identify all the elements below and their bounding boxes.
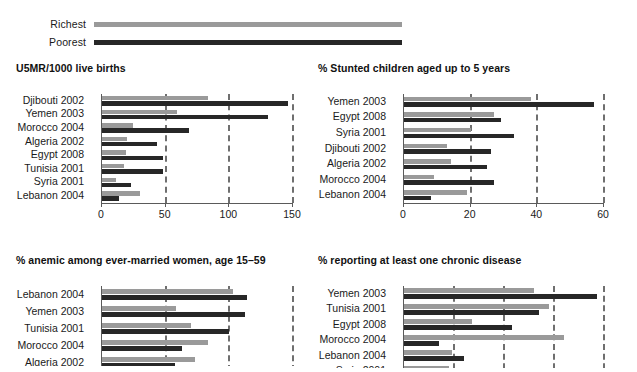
plot-area-anemic: Lebanon 2004Yemen 2003Tunisia 2001Morocc… [16,286,312,372]
bar-poorest [102,346,182,351]
category-label: Morocco 2004 [16,122,89,133]
bar-poorest [102,183,131,187]
bar-poorest [404,149,491,154]
x-tick-label: 40 [530,208,542,220]
bar-poorest [102,196,119,200]
bar-richest [102,164,124,168]
bar-richest [404,97,531,102]
bar-poorest [404,180,494,185]
category-label: Lebanon 2004 [16,289,89,300]
bar-poorest [404,118,501,123]
bar-richest [404,366,449,368]
bar-richest [102,323,191,328]
gridline-u5mr-100 [228,94,230,203]
category-label: Djibouti 2002 [16,95,89,106]
chart-title-anemic: % anemic among ever-married women, age 1… [16,254,266,266]
category-label: Syria 2001 [318,127,391,138]
category-label: Lebanon 2004 [16,190,89,201]
x-tick-label: 0 [400,208,406,220]
category-label: Lebanon 2004 [318,189,391,200]
bar-richest [102,289,233,294]
category-label: Tunisia 2001 [16,323,89,334]
x-tick-stunted-20 [470,204,471,207]
bar-poorest [102,128,189,132]
bar-poorest [404,196,431,201]
legend-label-richest: Richest [16,18,94,30]
category-label: Morocco 2004 [16,340,89,351]
gridline-stunted-40 [536,94,538,203]
category-label: Syria 2001 [16,176,89,187]
legend-label-poorest: Poorest [16,36,94,48]
category-label: Egypt 2008 [16,149,89,160]
category-label: Morocco 2004 [318,334,391,345]
bar-richest [404,335,564,340]
x-tick-u5mr-50 [165,204,166,207]
x-tick-label: 20 [464,208,476,220]
bar-richest [404,159,451,164]
bar-richest [404,288,534,293]
category-label: Yemen 2003 [16,108,89,119]
x-tick-label: 50 [159,208,171,220]
bar-richest [102,137,127,141]
bar-poorest [102,329,229,334]
plot-clip-stunted: Yemen 2003Egypt 2008Syria 2001Djibouti 2… [318,94,623,227]
chart-panel-anemic: % anemic among ever-married women, age 1… [16,254,266,266]
bar-poorest [404,356,464,361]
x-tick-u5mr-0 [101,204,102,207]
category-label: Morocco 2004 [318,174,391,185]
category-label: Tunisia 2001 [16,163,89,174]
bar-richest [102,178,116,182]
legend-swatch-richest [94,22,402,27]
legend-swatch-poorest [94,40,402,45]
bar-richest [102,340,208,345]
chart-title-stunted: % Stunted children aged up to 5 years [318,62,510,74]
bar-poorest [404,134,514,139]
chart-panel-chronic: % reporting at least one chronic disease… [318,254,521,266]
plot-area-stunted: Yemen 2003Egypt 2008Syria 2001Djibouti 2… [318,94,623,225]
plot-area-chronic: Yemen 2003Tunisia 2001Egypt 2008Morocco … [318,286,623,372]
bar-poorest [404,310,539,315]
bar-richest [404,350,452,355]
bar-poorest [102,142,157,146]
category-label: Lebanon 2004 [318,350,391,361]
bar-richest [404,112,494,117]
bar-richest [102,123,133,127]
category-label: Algeria 2002 [318,158,391,169]
plot-area-u5mr: Djibouti 2002Yemen 2003Morocco 2004Alger… [16,94,312,225]
category-label: Algeria 2002 [16,136,89,147]
plot-clip-anemic: Lebanon 2004Yemen 2003Tunisia 2001Morocc… [16,286,312,366]
bar-poorest [102,312,245,317]
x-tick-stunted-0 [403,204,404,207]
bar-poorest [404,165,487,170]
bar-richest [404,128,471,133]
bar-richest [404,144,447,149]
category-label: Syria 2001 [318,365,391,368]
bar-richest [404,304,549,309]
category-label: Djibouti 2002 [318,143,391,154]
bar-richest [102,191,140,195]
bar-poorest [404,325,512,330]
x-tick-label: 60 [597,208,609,220]
chart-title-u5mr: U5MR/1000 live births [16,62,126,74]
bar-poorest [404,102,594,107]
category-label: Algeria 2002 [16,357,89,367]
bar-richest [102,110,177,114]
gridline-chronic-80 [603,286,605,368]
gridline-stunted-60 [603,94,605,203]
x-tick-label: 0 [98,208,104,220]
bar-poorest [102,156,163,160]
x-tick-stunted-60 [603,204,604,207]
bar-poorest [102,101,288,105]
bar-richest [404,190,467,195]
chart-panel-stunted: % Stunted children aged up to 5 yearsYem… [318,62,510,74]
bar-richest [102,96,208,100]
category-label: Yemen 2003 [16,306,89,317]
x-tick-label: 100 [220,208,238,220]
category-label: Yemen 2003 [318,96,391,107]
chart-title-chronic: % reporting at least one chronic disease [318,254,521,266]
category-label: Tunisia 2001 [318,303,391,314]
bar-poorest [102,363,175,366]
legend-item-poorest: Poorest [16,36,402,48]
bar-richest [404,175,434,180]
gridline-u5mr-150 [292,94,294,203]
